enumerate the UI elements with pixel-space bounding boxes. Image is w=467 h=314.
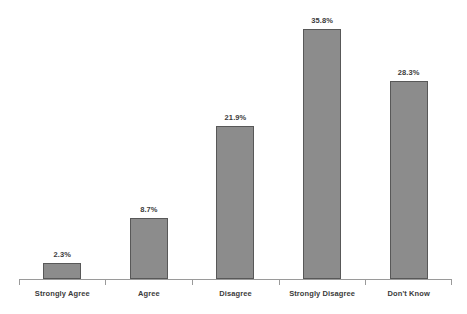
bar-group-4: 28.3%: [365, 8, 452, 279]
x-axis-category-labels: Strongly Agree Agree Disagree Strongly D…: [19, 289, 452, 305]
x-axis-tick-0: [19, 280, 20, 285]
x-axis-tick-5: [451, 280, 452, 285]
bar-group-1: 8.7%: [106, 8, 193, 279]
bar-value-label-3: 35.8%: [311, 16, 333, 25]
bar-4[interactable]: [390, 81, 428, 279]
bar-0[interactable]: [43, 263, 81, 279]
bar-2[interactable]: [216, 126, 254, 279]
x-axis-tick-1: [105, 280, 106, 285]
plot-area: 2.3% 8.7% 21.9% 35.8% 28.3%: [19, 8, 452, 279]
x-axis-label-1: Agree: [106, 289, 193, 298]
x-axis-tick-3: [279, 280, 280, 285]
bar-group-2: 21.9%: [192, 8, 279, 279]
x-axis-tick-4: [365, 280, 366, 285]
x-axis-label-0: Strongly Agree: [19, 289, 106, 298]
x-axis-label-4: Don't Know: [365, 289, 452, 298]
bar-value-label-0: 2.3%: [54, 250, 72, 259]
x-axis-label-3: Strongly Disagree: [279, 289, 366, 298]
x-axis-tick-2: [192, 280, 193, 285]
bar-3[interactable]: [303, 29, 341, 279]
bar-value-label-2: 21.9%: [225, 113, 247, 122]
bar-value-label-4: 28.3%: [398, 68, 420, 77]
x-axis-line: [19, 279, 452, 280]
bar-group-0: 2.3%: [19, 8, 106, 279]
bar-chart: 2.3% 8.7% 21.9% 35.8% 28.3% Strongly Agr…: [0, 0, 467, 314]
bar-1[interactable]: [130, 218, 168, 279]
bar-value-label-1: 8.7%: [140, 205, 158, 214]
bar-group-3: 35.8%: [279, 8, 366, 279]
x-axis-label-2: Disagree: [192, 289, 279, 298]
